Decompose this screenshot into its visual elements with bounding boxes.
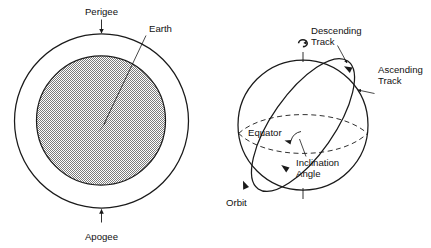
apogee-label: Apogee (85, 231, 118, 242)
figure-root: Perigee Apogee Earth (0, 0, 431, 248)
earth-disc (37, 56, 166, 185)
perigee-label: Perigee (85, 6, 118, 17)
inclination-angle-label-line1: Inclination (296, 157, 339, 168)
descending-track-label-line2: Track (311, 36, 335, 47)
earth-rotation-icon (299, 40, 308, 47)
orbit-label: Orbit (226, 197, 247, 208)
diagram-canvas: Perigee Apogee Earth (0, 0, 431, 248)
elliptical-orbit-panel: Perigee Apogee Earth (15, 6, 189, 242)
ascending-track-label-line2: Track (378, 75, 402, 86)
inclination-angle-leader (300, 139, 307, 157)
inclination-angle-arrowhead (285, 140, 292, 145)
descending-track-leader (338, 46, 348, 64)
descending-track-direction-arrow (344, 66, 353, 73)
descending-track-label-line1: Descending (311, 25, 362, 36)
equator-label: Equator (248, 127, 282, 138)
ascending-track-label-line1: Ascending (378, 64, 423, 75)
orbit-direction-arrow-lower-left (243, 181, 249, 190)
ascending-track-direction-arrow (281, 165, 289, 173)
ascending-track-leader (358, 90, 375, 94)
inclination-angle-label-line2: Angle (296, 168, 321, 179)
inclination-panel: Descending Track Ascending Track Equator… (226, 25, 423, 208)
earth-label: Earth (149, 23, 172, 34)
